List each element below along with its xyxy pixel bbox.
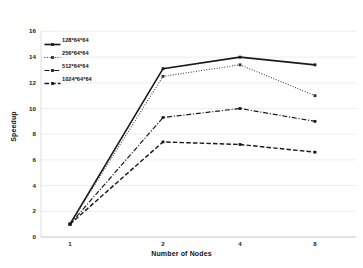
- y-tick-label: 2: [18, 207, 36, 214]
- legend-item: 1024*64*64: [44, 72, 116, 85]
- data-point-marker: [162, 75, 165, 78]
- data-point-marker: [162, 141, 165, 144]
- data-point-marker: [314, 63, 317, 66]
- legend-item-label: 512*64*64: [62, 63, 89, 69]
- y-tick-label: 8: [18, 130, 36, 137]
- legend-line-swatch: [44, 61, 61, 70]
- y-tick-label: 12: [18, 79, 36, 86]
- x-tick-label: 2: [153, 240, 173, 247]
- data-point-marker: [239, 56, 242, 59]
- y-tick-label: 16: [18, 27, 36, 34]
- x-axis-title: Number of Nodes: [0, 250, 363, 257]
- data-point-marker: [239, 63, 242, 66]
- legend-line-swatch: [44, 48, 61, 57]
- series-line-512*64*64: [70, 109, 315, 225]
- x-tick-label: 4: [230, 240, 250, 247]
- data-point-marker: [162, 116, 165, 119]
- legend-item-label: 128*64*64: [62, 37, 89, 43]
- chart-legend: 128*64*64256*64*64512*64*641024*64*64: [44, 33, 116, 85]
- y-tick-label: 14: [18, 53, 36, 60]
- legend-item-label: 1024*64*64: [62, 76, 92, 82]
- y-tick-label: 4: [18, 182, 36, 189]
- data-point-marker: [314, 151, 317, 154]
- legend-line-swatch: [44, 35, 61, 44]
- y-tick-label: 0: [18, 233, 36, 240]
- speedup-line-chart: 1614121086420 1248 Speedup Number of Nod…: [0, 0, 363, 268]
- data-point-marker: [314, 120, 317, 123]
- data-point-marker: [239, 143, 242, 146]
- legend-item-label: 256*64*64: [62, 50, 89, 56]
- x-tick-label: 8: [305, 240, 325, 247]
- x-tick-label: 1: [60, 240, 80, 247]
- y-tick-label: 10: [18, 105, 36, 112]
- data-point-marker: [162, 67, 165, 70]
- legend-item: 512*64*64: [44, 59, 116, 72]
- y-tick-label: 6: [18, 156, 36, 163]
- series-line-256*64*64: [70, 65, 315, 224]
- data-point-marker: [239, 107, 242, 110]
- data-point-marker: [314, 94, 317, 97]
- legend-item: 256*64*64: [44, 46, 116, 59]
- legend-line-swatch: [44, 74, 61, 83]
- legend-item: 128*64*64: [44, 33, 116, 46]
- y-axis-title: Speedup: [10, 97, 17, 157]
- series-line-1024*64*64: [70, 142, 315, 224]
- data-point-marker: [69, 223, 72, 226]
